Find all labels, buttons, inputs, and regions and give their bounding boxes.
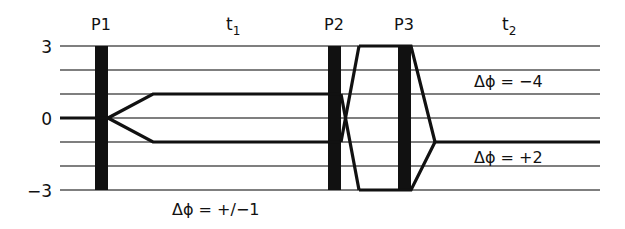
annotation-dphi-plus2: Δϕ = +2: [474, 148, 543, 167]
period-label-t2: t2: [502, 14, 516, 38]
annotation-dphi-minus4: Δϕ = −4: [474, 72, 543, 91]
pulse-label-p1: P1: [91, 15, 111, 34]
pulse-label-p3: P3: [394, 15, 414, 34]
y-tick-0: 0: [41, 109, 52, 129]
period-label-t1: t1: [226, 14, 240, 38]
pulse-bar-p3: [398, 46, 411, 190]
y-tick-3: 3: [41, 37, 52, 57]
pulse-bar-p2: [328, 46, 341, 190]
pathway-t1-plus1: [108, 94, 341, 118]
coherence-pathway-diagram: P1 P2 P3 t1 t2 3 0 −3 Δϕ = +/−1 Δϕ = −4 …: [0, 0, 625, 229]
pulse-label-p2: P2: [324, 15, 344, 34]
y-tick-minus3: −3: [27, 181, 52, 201]
pathway-t1-minus1: [108, 118, 341, 142]
annotation-dphi-t1: Δϕ = +/−1: [172, 200, 259, 219]
